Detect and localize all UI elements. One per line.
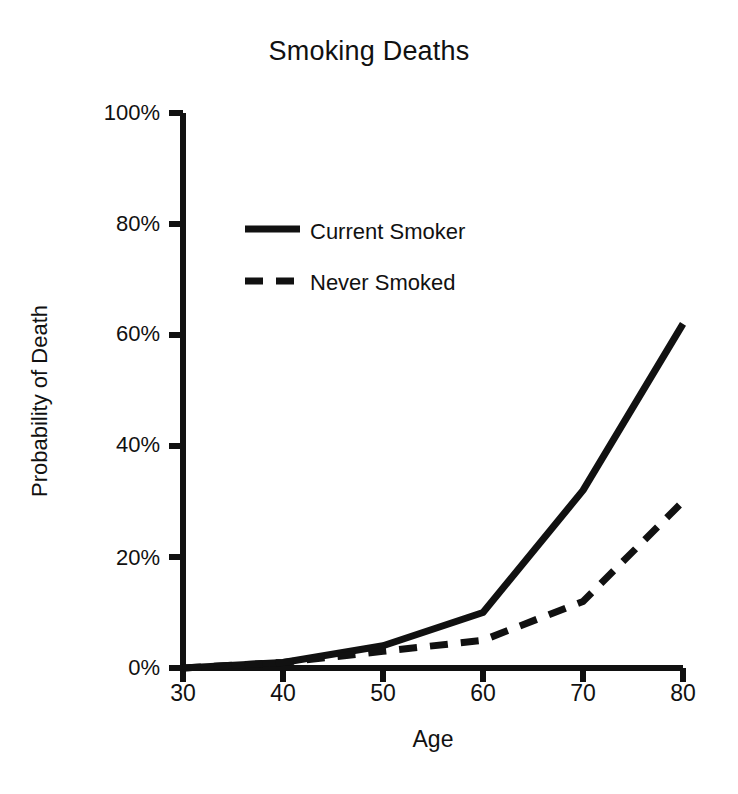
plot-area bbox=[0, 0, 738, 794]
series-line-never-smoked bbox=[183, 502, 683, 669]
chart-figure: Smoking Deaths Probability of Death 100%… bbox=[0, 0, 738, 794]
series-line-current-smoker bbox=[183, 324, 683, 668]
